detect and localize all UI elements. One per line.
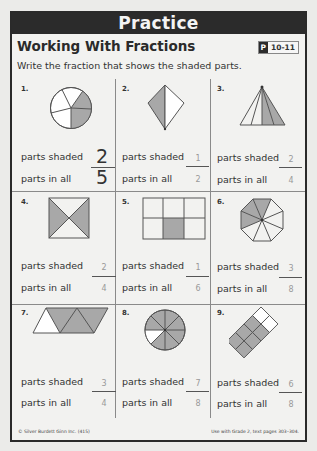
shaded-answer: 2	[92, 147, 112, 166]
parts-in-all-label: parts in all	[21, 173, 71, 184]
badge-pages: 10-11	[268, 42, 298, 53]
total-answer: 6	[188, 284, 208, 293]
fraction-bar	[186, 166, 209, 167]
shaded-answer: 6	[281, 380, 301, 389]
parts-shaded-label: parts shaded	[122, 260, 184, 271]
parts-in-all-label: parts in all	[122, 282, 172, 293]
parts-shaded-label: parts shaded	[21, 376, 83, 387]
shaded-answer: 2	[281, 155, 301, 164]
circle-fifths-icon	[48, 85, 94, 131]
diamond-grid-icon	[229, 305, 293, 369]
total-answer: 8	[281, 285, 301, 294]
problem-number: 5.	[122, 198, 130, 206]
problem-number: 3.	[217, 85, 225, 93]
fraction-bar	[186, 276, 209, 277]
parts-in-all-label: parts in all	[217, 283, 267, 294]
parts-shaded-label: parts shaded	[217, 152, 279, 163]
parts-in-all-label: parts in all	[217, 398, 267, 409]
parts-in-all-label: parts in all	[217, 174, 267, 185]
kite-halves-icon	[146, 83, 186, 131]
fraction-bar	[92, 391, 116, 392]
practice-banner: Practice	[12, 13, 305, 34]
usage-footer: Use with Grade 2, text pages 303–304.	[211, 429, 299, 434]
badge-prefix: P	[259, 42, 269, 53]
problem-number: 8.	[122, 309, 130, 317]
total-answer: 5	[92, 168, 112, 187]
total-answer: 4	[281, 176, 301, 185]
copyright-footer: © Silver Burdett Ginn Inc. (415)	[18, 429, 90, 434]
octagon-eighths-icon	[238, 196, 286, 244]
parts-shaded-label: parts shaded	[21, 260, 83, 271]
page-badge: P 10-11	[258, 41, 300, 54]
problem-number: 1.	[21, 85, 29, 93]
problem-5: 5. parts shaded 1 parts in all 6	[116, 192, 211, 305]
total-answer: 8	[188, 399, 208, 408]
total-answer: 4	[94, 399, 114, 408]
problem-4: 4. parts shaded 2 parts in all 4	[12, 192, 116, 305]
rectangle-sixths-icon	[142, 197, 206, 241]
parts-in-all-label: parts in all	[122, 173, 172, 184]
circle-eighths-icon	[143, 308, 187, 352]
problem-2: 2. parts shaded 1 parts in all 2	[116, 79, 211, 192]
problem-6: 6. parts shaded 3 parts in all 8	[211, 192, 305, 305]
title-row: Working With Fractions P 10-11	[12, 34, 305, 56]
total-answer: 8	[281, 400, 301, 409]
parallelogram-fourths-icon	[32, 307, 114, 335]
total-answer: 4	[94, 284, 114, 293]
problem-number: 7.	[21, 309, 29, 317]
parts-shaded-label: parts shaded	[21, 151, 83, 162]
shaded-answer: 3	[94, 379, 114, 388]
shaded-answer: 7	[188, 379, 208, 388]
problem-9: 9. parts shaded 6 parts in all 8	[211, 305, 305, 418]
parts-shaded-label: parts shaded	[122, 151, 184, 162]
problem-3: 3. parts shaded 2 parts in all 4	[211, 79, 305, 192]
problem-8: 8. parts shaded 7 parts in all 8	[116, 305, 211, 418]
shaded-answer: 3	[281, 264, 301, 273]
problem-number: 6.	[217, 198, 225, 206]
fraction-bar	[92, 276, 116, 277]
square-x-icon	[48, 197, 90, 239]
problem-number: 9.	[217, 309, 225, 317]
parts-in-all-label: parts in all	[21, 397, 71, 408]
worksheet-page: Practice Working With Fractions P 10-11 …	[10, 11, 307, 442]
shaded-answer: 1	[188, 154, 208, 163]
parts-in-all-label: parts in all	[122, 397, 172, 408]
problem-7: 7. parts shaded 3 parts in all 4	[12, 305, 116, 418]
problem-number: 2.	[122, 85, 130, 93]
total-answer: 2	[188, 175, 208, 184]
parts-shaded-label: parts shaded	[122, 376, 184, 387]
fraction-bar	[279, 167, 302, 168]
instructions: Write the fraction that shows the shaded…	[17, 60, 242, 71]
problem-number: 4.	[21, 198, 29, 206]
fraction-bar	[279, 392, 302, 393]
problems-grid: 1. parts shaded 2 parts in all 5	[12, 79, 305, 418]
triangle-fourths-icon	[239, 85, 287, 129]
shaded-answer: 1	[188, 263, 208, 272]
parts-shaded-label: parts shaded	[217, 377, 279, 388]
problem-1: 1. parts shaded 2 parts in all 5	[12, 79, 116, 192]
parts-shaded-label: parts shaded	[217, 261, 279, 272]
shaded-answer: 2	[94, 263, 114, 272]
worksheet-title: Working With Fractions	[17, 38, 195, 54]
fraction-bar	[186, 391, 209, 392]
parts-in-all-label: parts in all	[21, 282, 71, 293]
fraction-bar	[279, 277, 302, 278]
